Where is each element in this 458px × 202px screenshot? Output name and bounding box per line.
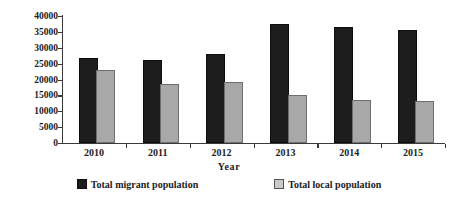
y-axis-tick-label: 15000 xyxy=(18,90,58,100)
legend-label: Total local population xyxy=(288,179,381,190)
y-axis-tick-label: 25000 xyxy=(18,59,58,69)
bar-migrant-2015 xyxy=(398,30,417,143)
x-axis-tick-label-2010: 2010 xyxy=(64,147,124,158)
y-axis-tick-label: 5000 xyxy=(18,122,58,132)
y-axis-tick-mark xyxy=(58,16,63,17)
legend-label: Total migrant population xyxy=(91,179,198,190)
y-axis-tick-label: 35000 xyxy=(18,27,58,37)
x-axis-tick-label-2014: 2014 xyxy=(319,147,379,158)
chart-legend: Total migrant populationTotal local popu… xyxy=(0,176,458,192)
y-axis-tick-mark xyxy=(58,64,63,65)
y-axis-tick-label: 40000 xyxy=(18,11,58,21)
legend-item-local[interactable]: Total local population xyxy=(274,179,381,190)
bar-group-2015 xyxy=(398,16,433,143)
y-axis-tick-mark xyxy=(58,32,63,33)
bar-migrant-2012 xyxy=(206,54,225,143)
legend-item-migrant[interactable]: Total migrant population xyxy=(77,179,198,190)
x-axis-tick-label-2015: 2015 xyxy=(383,147,443,158)
y-axis-tick-mark xyxy=(58,111,63,112)
migrant-swatch-icon xyxy=(77,179,87,189)
x-axis-tick-labels: 201020112012201320142015 xyxy=(62,147,445,161)
bar-local-2011 xyxy=(160,84,179,143)
y-axis-tick-label: 30000 xyxy=(18,43,58,53)
bar-migrant-2010 xyxy=(79,58,98,143)
bar-group-2014 xyxy=(334,16,369,143)
y-axis-tick-label: 10000 xyxy=(18,106,58,116)
bar-group-2011 xyxy=(143,16,178,143)
bar-migrant-2011 xyxy=(143,60,162,143)
y-axis-tick-mark xyxy=(58,127,63,128)
y-axis-tick-mark xyxy=(58,80,63,81)
y-axis-tick-mark xyxy=(58,143,63,144)
x-axis-tick-label-2011: 2011 xyxy=(128,147,188,158)
bar-group-2010 xyxy=(79,16,114,143)
local-swatch-icon xyxy=(274,179,284,189)
x-axis-tick-label-2012: 2012 xyxy=(192,147,252,158)
plot-area xyxy=(62,16,445,143)
y-axis-tick-mark xyxy=(58,95,63,96)
y-axis-tick-label: 0 xyxy=(18,138,58,148)
bar-local-2010 xyxy=(96,70,115,143)
y-axis-tick-labels: 0500010000150002000025000300003500040000 xyxy=(18,10,58,143)
y-axis-tick-label: 20000 xyxy=(18,75,58,85)
bar-local-2012 xyxy=(224,82,243,143)
bar-group-2013 xyxy=(270,16,305,143)
bar-local-2015 xyxy=(415,101,434,143)
x-axis-tick-mark xyxy=(445,144,446,148)
bar-migrant-2014 xyxy=(334,27,353,143)
y-axis-tick-mark xyxy=(58,48,63,49)
bar-local-2013 xyxy=(288,95,307,143)
x-axis-title: Year xyxy=(0,161,458,172)
bar-local-2014 xyxy=(352,100,371,143)
bar-migrant-2013 xyxy=(270,24,289,143)
x-axis-tick-label-2013: 2013 xyxy=(255,147,315,158)
bar-group-2012 xyxy=(206,16,241,143)
bar-chart: Population (person) 05000100001500020000… xyxy=(0,0,458,202)
